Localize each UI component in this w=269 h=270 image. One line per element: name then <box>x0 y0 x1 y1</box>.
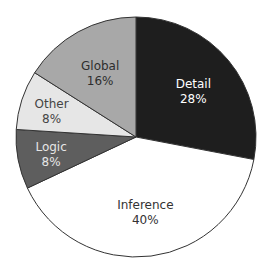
slice-value-other: 8% <box>42 112 61 126</box>
slice-label-other: Other <box>35 97 69 111</box>
slice-label-detail: Detail <box>176 77 211 91</box>
slice-label-global: Global <box>81 59 119 73</box>
pie-chart: Detail28%Inference40%Logic8%Other8%Globa… <box>0 0 269 270</box>
slice-value-detail: 28% <box>180 92 207 106</box>
slice-value-global: 16% <box>87 74 114 88</box>
slice-label-logic: Logic <box>35 140 66 154</box>
slice-value-inference: 40% <box>132 213 159 227</box>
slice-label-inference: Inference <box>117 198 173 212</box>
slice-value-logic: 8% <box>42 155 61 169</box>
